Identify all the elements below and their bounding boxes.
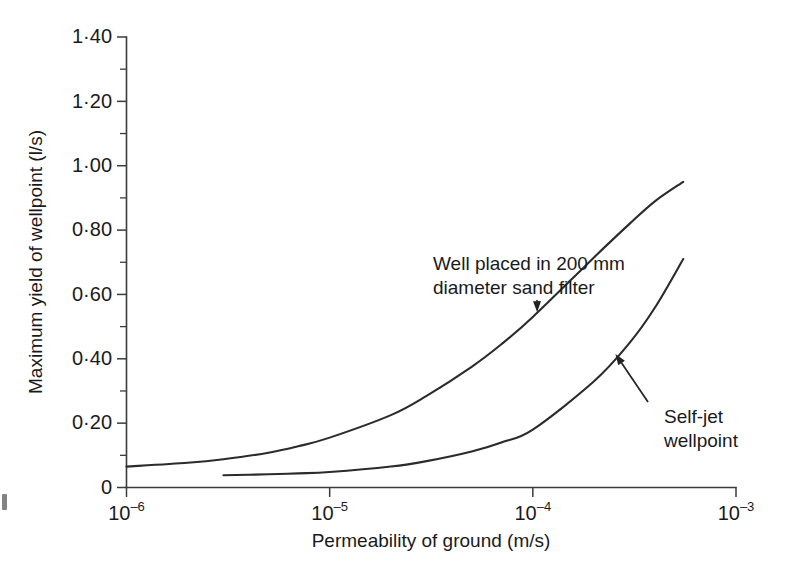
y-axis-title: Maximum yield of wellpoint (l/s) <box>25 130 46 394</box>
axes-group <box>127 37 737 488</box>
y-ticks-group <box>117 37 127 488</box>
y-tick-label: 0·20 <box>72 411 112 433</box>
annotations-group: Well placed in 200 mmdiameter sand filte… <box>433 253 739 451</box>
x-ticks-group <box>127 488 737 498</box>
data-curve-1 <box>127 182 684 467</box>
y-tick-label: 0·80 <box>72 218 112 240</box>
x-tick-label: 10–3 <box>718 499 755 524</box>
data-series-group <box>127 182 684 475</box>
x-tick-label: 10–5 <box>311 499 348 524</box>
y-tick-label: 0·40 <box>72 347 112 369</box>
y-tick-label: 0 <box>101 476 112 498</box>
annotation-self-jet-leader <box>622 363 648 402</box>
annotation-sand-filter-text: Well placed in 200 mmdiameter sand filte… <box>433 253 625 298</box>
x-tick-label: 10–4 <box>514 499 551 524</box>
y-tick-label: 0·60 <box>72 283 112 305</box>
annotation-self-jet-text: Self-jetwellpoint <box>663 406 739 451</box>
chart-canvas: 00·200·400·600·801·001·201·40 10–610–510… <box>0 0 790 586</box>
y-tick-labels-group: 00·200·400·600·801·001·201·40 <box>72 25 112 498</box>
y-tick-label: 1·40 <box>72 25 112 47</box>
scan-edge-artifact <box>2 494 7 510</box>
y-tick-label: 1·20 <box>72 90 112 112</box>
x-axis-title: Permeability of ground (m/s) <box>312 530 551 551</box>
y-tick-label: 1·00 <box>72 154 112 176</box>
x-tick-labels-group: 10–610–510–410–3 <box>108 499 754 524</box>
chart-figure: 00·200·400·600·801·001·201·40 10–610–510… <box>0 0 790 586</box>
x-tick-label: 10–6 <box>108 499 145 524</box>
